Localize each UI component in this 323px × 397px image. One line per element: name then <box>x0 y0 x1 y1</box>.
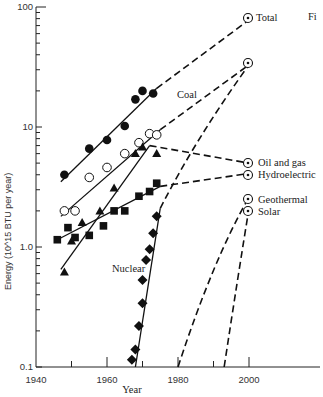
point-total <box>120 122 129 131</box>
x-tick-label: 1980 <box>167 374 188 385</box>
point-nuclear <box>138 275 148 285</box>
projection-endpoints <box>244 14 253 216</box>
y-tick-label: 100 <box>17 1 33 12</box>
point-coal <box>60 207 69 216</box>
y-tick-label: 1.0 <box>20 241 33 252</box>
point-coal <box>85 173 94 182</box>
point-hydro <box>110 207 118 215</box>
projection-lines <box>150 20 249 367</box>
point-hydro <box>85 232 93 240</box>
point-coal <box>152 131 161 140</box>
fit-lines <box>57 88 160 367</box>
label-geothermal: Geothermal <box>258 194 308 205</box>
label-nuclear: Nuclear <box>112 263 146 274</box>
y-tick-label: 10 <box>22 121 33 132</box>
point-hydro <box>146 188 154 196</box>
label-solar: Solar <box>258 206 281 217</box>
y-axis-ticks: 0.11.010100 <box>17 1 46 372</box>
x-tick-label: 1960 <box>96 374 117 385</box>
label-hydroelectric: Hydroelectric <box>258 169 316 180</box>
point-hydro <box>153 179 161 187</box>
point-coal <box>120 149 129 158</box>
point-total <box>149 89 158 98</box>
point-total <box>138 87 147 96</box>
point-nuclear <box>152 211 162 221</box>
x-axis-label: Year <box>122 384 142 395</box>
point-total <box>60 170 69 179</box>
label-total: Total <box>256 12 278 23</box>
point-oil-gas <box>152 149 161 157</box>
point-total <box>131 95 140 104</box>
point-coal <box>103 163 112 172</box>
label-oil-gas: Oil and gas <box>258 157 306 168</box>
point-coal <box>71 207 80 216</box>
point-hydro <box>100 222 108 230</box>
y-tick-label: 0.1 <box>20 361 33 372</box>
label-coal: Coal <box>177 89 197 100</box>
corner-label: Fi <box>308 11 317 22</box>
y-axis-label: Energy (10^15 BTU per year) <box>3 173 13 290</box>
point-total <box>85 144 94 153</box>
x-tick-label: 2000 <box>238 374 259 385</box>
point-hydro <box>54 236 62 244</box>
point-hydro <box>121 207 129 215</box>
energy-chart: 0.11.010100 1940196019802000 Energy (10^… <box>0 0 323 397</box>
point-hydro <box>64 224 72 232</box>
x-tick-label: 1940 <box>25 374 46 385</box>
point-oil-gas <box>78 218 87 226</box>
point-oil-gas <box>110 184 119 192</box>
point-hydro <box>71 234 79 242</box>
point-hydro <box>135 192 143 200</box>
data-markers <box>54 87 162 365</box>
point-total <box>103 136 112 145</box>
